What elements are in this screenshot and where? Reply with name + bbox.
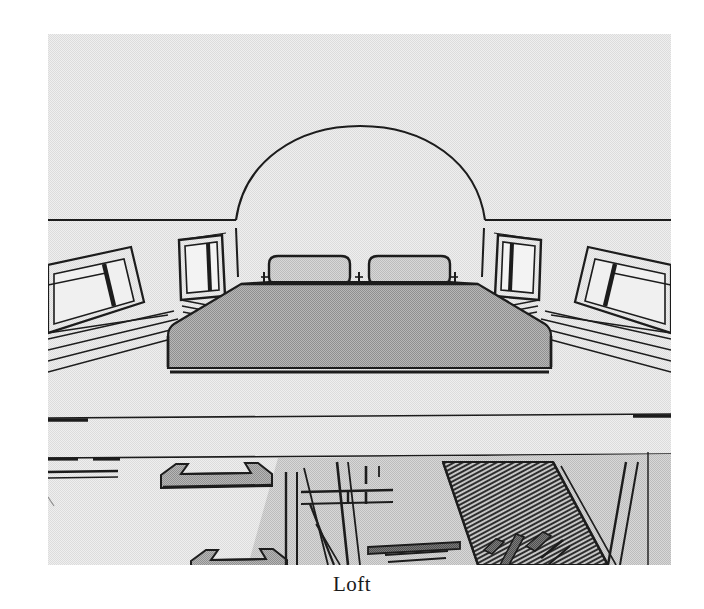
bed-platform (168, 282, 551, 372)
window-back-right-mullion (510, 243, 512, 291)
window-back-left-mullion (208, 243, 210, 291)
page-canvas: Loft (0, 0, 704, 609)
pillow-left (261, 256, 350, 284)
figure-caption: Loft (0, 572, 704, 597)
figure-image (48, 34, 671, 565)
pillow-right (355, 256, 458, 284)
bed-body (168, 282, 551, 368)
loft-perspective-drawing (48, 34, 671, 565)
